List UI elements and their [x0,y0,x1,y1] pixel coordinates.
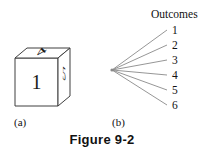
outcome-tree: Outcomes 1 2 3 4 5 6 [105,2,204,120]
branch-line-4 [112,70,167,75]
outcome-tree-svg: Outcomes 1 2 3 4 5 6 [105,2,204,120]
outcomes-title: Outcomes [151,8,198,20]
branch-line-1 [112,30,167,70]
outcome-label-5: 5 [172,84,178,96]
branch-line-6 [112,70,167,105]
outcome-label-4: 4 [172,69,178,81]
die-right-digit: 5 [62,62,65,85]
die-svg: 1 4 5 [10,44,76,112]
branch-lines [112,30,167,105]
die-front-digit: 1 [32,71,42,93]
die-illustration: 1 4 5 [10,44,76,112]
outcome-label-2: 2 [172,39,178,51]
figure-caption: Figure 9-2 [0,132,204,147]
outcome-label-6: 6 [172,99,178,111]
figure-container: 1 4 5 Outcomes [0,0,204,153]
panel-label-a: (a) [14,117,26,128]
branch-origin-node [110,68,113,71]
branch-line-3 [112,60,167,70]
branch-line-2 [112,45,167,70]
panel-label-b: (b) [112,117,125,128]
outcome-label-1: 1 [172,24,178,36]
die-right-digit-group: 5 [62,62,65,85]
outcome-label-3: 3 [172,54,178,66]
